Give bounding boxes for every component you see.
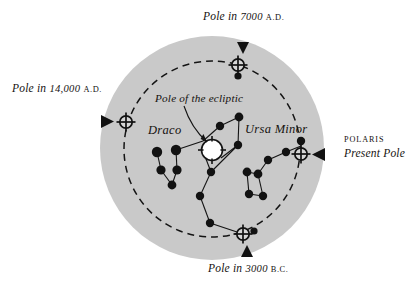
star-dot <box>171 145 181 155</box>
label-pole-3000-bc: Pole in 3000 B.C. <box>208 262 288 275</box>
label-pole-14000-ad: Pole in 14,000 A.D. <box>12 82 102 95</box>
star-dot <box>206 219 214 227</box>
star-dot <box>156 165 165 174</box>
star-dot <box>234 141 242 149</box>
label-pole-14000-prefix: Pole in <box>12 82 49 94</box>
label-ursa-minor: Ursa Minor <box>245 123 307 136</box>
star-dot <box>282 148 290 156</box>
star-dot <box>216 122 224 130</box>
label-pole-14000-era: A.D. <box>83 85 101 94</box>
star-dot <box>207 168 215 176</box>
label-pole-3000-number: 3000 <box>245 263 267 274</box>
label-pole-7000-era: A.D. <box>266 13 284 22</box>
star-dot <box>196 192 204 200</box>
star-dot <box>264 156 272 164</box>
label-pole-14000-number: 14,000 <box>49 83 80 94</box>
star-dot <box>259 192 267 200</box>
star-dot <box>245 190 253 198</box>
label-pole-7000-ad: Pole in 7000 A.D. <box>203 10 284 23</box>
label-pole-3000-prefix: Pole in <box>208 262 245 274</box>
star-dot <box>172 165 181 174</box>
star-dot <box>168 181 177 190</box>
star-dot <box>152 147 162 157</box>
star-dot <box>297 137 305 145</box>
label-pole-7000-number: 7000 <box>240 11 262 22</box>
star-dot <box>254 170 263 179</box>
label-pole-of-the-ecliptic: Pole of the ecliptic <box>155 93 243 105</box>
label-present-pole: Present Pole <box>344 147 405 159</box>
label-polaris: POLARIS <box>344 136 384 145</box>
label-pole-7000-prefix: Pole in <box>203 10 240 22</box>
star-dot <box>235 113 244 122</box>
label-pole-3000-era: B.C. <box>271 265 289 274</box>
label-draco: Draco <box>148 124 181 137</box>
star-dot <box>243 168 252 177</box>
